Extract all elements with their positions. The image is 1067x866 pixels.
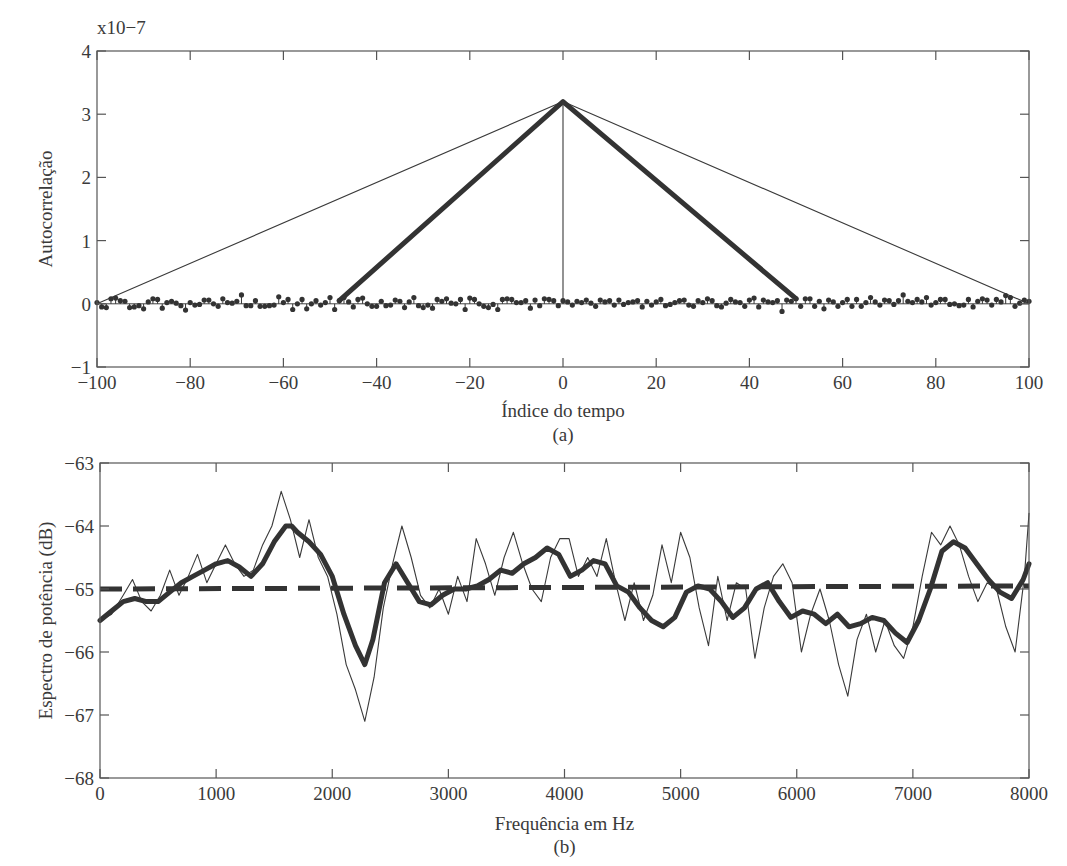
thick-line-series [100, 526, 1029, 665]
power-spectrum-chart: 010002000300040005000600070008000−68−67−… [35, 453, 1048, 858]
x-tick-label: 80 [926, 372, 945, 393]
figure: −100−80−60−40−20020406080100−101234 x10−… [0, 0, 1067, 866]
axes-frame-b [100, 463, 1029, 778]
plot-area-b [100, 491, 1029, 721]
y-multiplier-label: x10−7 [97, 17, 146, 38]
x-tick-label: 20 [647, 372, 666, 393]
x-tick-label: 40 [740, 372, 759, 393]
x-tick-label: 7000 [894, 783, 932, 804]
x-tick-label: −40 [362, 372, 392, 393]
x-axis-label-a: Índice do tempo [501, 400, 624, 421]
subfigure-label-a: (a) [552, 424, 573, 446]
x-tick-label: 1000 [197, 783, 235, 804]
y-tick-label: 3 [82, 104, 92, 125]
x-tick-label: 6000 [778, 783, 816, 804]
ticks-b: 010002000300040005000600070008000−68−67−… [64, 453, 1048, 804]
thick-line-series [339, 102, 796, 301]
x-tick-label: −80 [175, 372, 205, 393]
y-tick-label: 1 [82, 231, 92, 252]
y-tick-label: −63 [64, 453, 94, 474]
x-tick-label: −20 [455, 372, 485, 393]
x-tick-label: 0 [558, 372, 568, 393]
y-tick-label: −68 [64, 768, 94, 789]
y-tick-label: −64 [64, 516, 94, 537]
x-tick-label: 3000 [429, 783, 467, 804]
x-tick-label: 0 [95, 783, 105, 804]
y-tick-label: −66 [64, 642, 94, 663]
x-tick-label: 5000 [662, 783, 700, 804]
y-axis-label-b: Espectro de potência (dB) [35, 522, 57, 720]
y-tick-label: 2 [82, 167, 92, 188]
x-tick-label: 60 [833, 372, 852, 393]
y-tick-label: −1 [71, 357, 91, 378]
thin-line-series [100, 491, 1029, 721]
x-tick-label: 4000 [546, 783, 584, 804]
y-axis-label-a: Autocorrelação [35, 150, 56, 267]
subfigure-label-b: (b) [553, 836, 575, 858]
ticks-a: −100−80−60−40−20020406080100−101234 [71, 41, 1043, 393]
y-tick-label: −65 [64, 579, 94, 600]
plot-area-a [94, 102, 1031, 314]
x-axis-label-b: Frequência em Hz [495, 813, 634, 834]
x-tick-label: −60 [269, 372, 299, 393]
y-tick-label: −67 [64, 705, 94, 726]
x-tick-label: 8000 [1010, 783, 1048, 804]
x-tick-label: 100 [1015, 372, 1044, 393]
y-tick-label: 4 [82, 41, 92, 62]
autocorrelation-chart: −100−80−60−40−20020406080100−101234 x10−… [35, 17, 1043, 446]
x-tick-label: 2000 [313, 783, 351, 804]
dashed-line-series [100, 586, 1029, 589]
y-tick-label: 0 [82, 294, 92, 315]
